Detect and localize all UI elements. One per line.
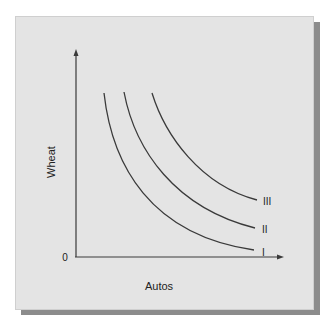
- x-axis-arrow-icon: [277, 255, 284, 260]
- y-axis-arrow-icon: [74, 49, 79, 56]
- curve-label-2: II: [262, 224, 268, 235]
- y-axis-label: Wheat: [45, 146, 57, 178]
- curve-label-1: I: [262, 247, 265, 258]
- curve-label-3: III: [263, 196, 271, 207]
- indifference-curve-3: [152, 93, 257, 200]
- indifference-curve-2: [124, 92, 255, 228]
- indifference-curve-1: [104, 93, 254, 250]
- x-axis-label: Autos: [145, 280, 174, 292]
- origin-label: 0: [62, 252, 68, 263]
- chart-svg: III II I 0 Autos Wheat: [0, 0, 334, 334]
